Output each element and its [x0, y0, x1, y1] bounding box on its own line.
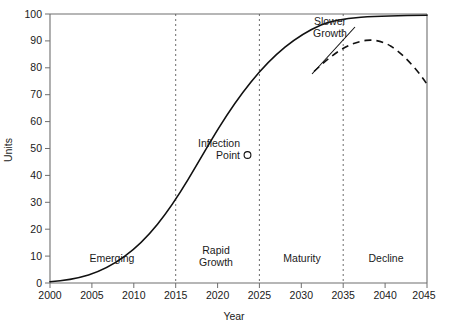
y-axis-title: Units	[2, 138, 14, 162]
x-tick-label-2045: 2045	[412, 289, 436, 301]
x-tick-label-2040: 2040	[373, 289, 397, 301]
x-tick-label-2000: 2000	[38, 289, 62, 301]
inflection-point-label-line1: Inflection	[198, 137, 240, 149]
slower-growth-label-line2: Growth	[313, 27, 347, 39]
x-tick-label-2020: 2020	[206, 289, 230, 301]
chart-page: 0 10 20 30 40 50 60 70 80 90 100	[0, 0, 449, 329]
stage-label-decline: Decline	[368, 252, 403, 264]
y-tick-label-60: 60	[30, 115, 42, 127]
stage-label-maturity: Maturity	[283, 252, 321, 264]
y-tick-label-70: 70	[30, 88, 42, 100]
y-axis-tick-labels: 0 10 20 30 40 50 60 70 80 90 100	[24, 8, 42, 289]
x-axis-title: Year	[223, 310, 245, 322]
x-tick-label-2030: 2030	[290, 289, 314, 301]
y-tick-label-90: 90	[30, 34, 42, 46]
series-decline-branch	[314, 40, 427, 83]
y-tick-label-40: 40	[30, 169, 42, 181]
x-tick-label-2010: 2010	[122, 289, 146, 301]
x-tick-label-2035: 2035	[332, 289, 356, 301]
y-tick-label-80: 80	[30, 61, 42, 73]
stage-label-rapid-line2: Growth	[199, 256, 233, 268]
x-tick-label-2025: 2025	[248, 289, 272, 301]
lifecycle-s-curve-chart: 0 10 20 30 40 50 60 70 80 90 100	[0, 0, 449, 329]
y-tick-label-50: 50	[30, 142, 42, 154]
inflection-point-label-line2: Point	[216, 149, 240, 161]
y-axis-ticks	[45, 14, 50, 283]
x-axis-ticks	[50, 283, 427, 288]
y-tick-label-10: 10	[30, 250, 42, 262]
y-tick-label-30: 30	[30, 196, 42, 208]
x-tick-label-2005: 2005	[80, 289, 104, 301]
y-tick-label-20: 20	[30, 223, 42, 235]
inflection-point-marker	[244, 152, 251, 159]
x-tick-label-2015: 2015	[164, 289, 188, 301]
stage-label-rapid-line1: Rapid	[202, 244, 230, 256]
stage-labels: Emerging Rapid Growth Maturity Decline	[90, 244, 404, 268]
x-axis-tick-labels: 2000 2005 2010 2015 2020 2025 2030 2035 …	[38, 289, 436, 301]
annotation-slower-growth: Slower Growth	[313, 15, 347, 39]
slower-growth-label-line1: Slower	[314, 15, 347, 27]
y-tick-label-0: 0	[36, 277, 42, 289]
y-tick-label-100: 100	[24, 8, 42, 20]
